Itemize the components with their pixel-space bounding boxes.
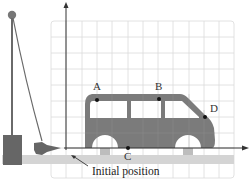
point-a-marker bbox=[95, 98, 99, 102]
point-c-label: C bbox=[124, 150, 131, 162]
pivot-ball bbox=[8, 11, 16, 19]
point-b-label: B bbox=[155, 80, 162, 92]
impactor bbox=[34, 142, 61, 155]
y-axis-arrow-icon bbox=[64, 2, 69, 8]
cable bbox=[13, 18, 42, 141]
point-d-marker bbox=[203, 115, 207, 119]
point-b-marker bbox=[157, 97, 161, 101]
front-tire bbox=[183, 148, 193, 155]
base-block bbox=[3, 135, 22, 165]
caption-initial-position: Initial position bbox=[92, 165, 160, 178]
test-apparatus bbox=[3, 11, 61, 165]
ground-track bbox=[2, 155, 234, 164]
point-d-label: D bbox=[210, 102, 218, 114]
point-a-label: A bbox=[93, 80, 101, 92]
diagram-canvas: A B C D Initial position bbox=[0, 0, 251, 192]
x-axis-arrow-icon bbox=[242, 146, 249, 151]
rear-window bbox=[90, 101, 127, 118]
middle-window bbox=[131, 101, 161, 118]
rear-tire bbox=[100, 148, 110, 155]
minivan bbox=[85, 94, 215, 155]
